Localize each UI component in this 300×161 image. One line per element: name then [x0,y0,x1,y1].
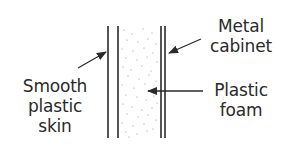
label-metal-cabinet-line2: cabinet [198,36,284,56]
diagram-canvas: Metal cabinet Smooth plastic skin Plasti… [0,0,300,161]
label-metal-cabinet: Metal cabinet [198,16,284,56]
label-smooth-plastic-skin-line1: Smooth [12,76,98,96]
label-plastic-foam-line2: foam [204,100,278,120]
metal-cabinet-arrow-icon [169,39,201,53]
label-smooth-plastic-skin-line3: skin [12,116,98,136]
label-smooth-plastic-skin-line2: plastic [12,96,98,116]
label-smooth-plastic-skin: Smooth plastic skin [12,76,98,136]
label-plastic-foam-line1: Plastic [204,80,278,100]
label-metal-cabinet-line1: Metal [198,16,284,36]
label-plastic-foam: Plastic foam [204,80,278,120]
plastic-skin-arrow-icon [78,52,106,68]
plastic-foam-stipple [121,28,157,137]
